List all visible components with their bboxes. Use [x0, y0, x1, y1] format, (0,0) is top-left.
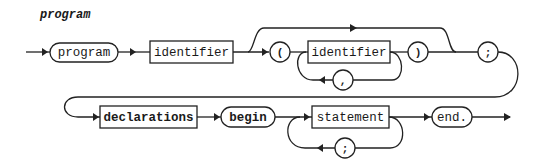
declarations-label: declarations — [103, 111, 193, 125]
entry-arrow-icon — [42, 48, 48, 56]
row-1: program identifier ( identifier , ) — [26, 24, 498, 90]
comma-label: , — [340, 75, 347, 87]
open-paren-label: ( — [277, 47, 284, 59]
end-keyword-label: end. — [437, 111, 467, 125]
bypass-arrow-icon — [350, 24, 357, 32]
loop-arrow-icon — [319, 76, 325, 84]
semicolon-label-2: ; — [342, 143, 349, 155]
exit-arrow-icon — [504, 113, 511, 121]
arrow-icon — [424, 113, 430, 121]
close-paren-label: ) — [415, 47, 422, 59]
semicolon-label-1: ; — [485, 47, 492, 59]
row-2: declarations begin statement ; end. — [100, 106, 511, 158]
arrow-icon — [214, 113, 220, 121]
statement-label: statement — [317, 111, 385, 125]
diagram-title: program — [39, 8, 91, 22]
syntax-diagram: program program identifier ( identifier — [0, 0, 546, 161]
program-keyword-label: program — [58, 46, 111, 60]
arrow-icon — [93, 113, 99, 121]
identifier-label-2: identifier — [311, 46, 386, 60]
identifier-label-1: identifier — [154, 46, 229, 60]
arrow-icon — [304, 113, 310, 121]
arrow-icon — [262, 48, 268, 56]
arrow-icon — [130, 48, 136, 56]
begin-keyword-label: begin — [229, 111, 267, 125]
loop-arrow-icon — [317, 144, 323, 152]
